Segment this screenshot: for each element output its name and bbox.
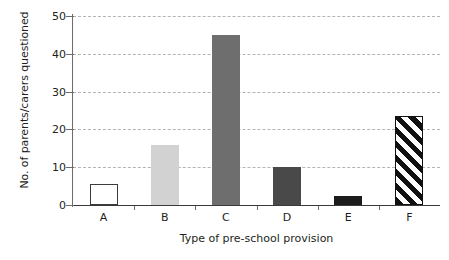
y-axis-tick-mark — [66, 205, 74, 206]
y-axis-tick-mark — [66, 16, 74, 17]
y-axis-tick-label: 30 — [34, 86, 66, 97]
x-axis-tick-label-b: B — [161, 211, 169, 224]
y-axis-tick-mark — [66, 54, 74, 55]
gridline — [73, 129, 440, 130]
gridline — [73, 54, 440, 55]
bar-e — [334, 196, 362, 205]
gridline — [73, 16, 440, 17]
bar-chart: No. of parents/carers questioned 0102030… — [0, 0, 449, 260]
plot-area — [73, 16, 440, 205]
bar-b — [151, 145, 179, 205]
gridline — [73, 92, 440, 93]
y-axis-tick-label: 40 — [34, 48, 66, 59]
y-axis-title: No. of parents/carers questioned — [13, 0, 35, 205]
y-axis-tick-label: 0 — [34, 200, 66, 211]
y-axis-tick-label: 20 — [34, 124, 66, 135]
bar-a — [90, 184, 118, 205]
y-axis-tick-labels: 01020304050 — [34, 0, 66, 260]
x-axis-tick-label-d: D — [283, 211, 291, 224]
x-axis-tick-mark — [257, 206, 258, 210]
gridline — [73, 167, 440, 168]
x-axis-tick-label-a: A — [100, 211, 108, 224]
x-axis-tick-mark — [379, 206, 380, 210]
x-axis-tick-mark — [318, 206, 319, 210]
x-axis-tick-mark — [134, 206, 135, 210]
x-axis-tick-label-e: E — [345, 211, 352, 224]
x-axis-tick-label-c: C — [222, 211, 230, 224]
y-axis-tick-label: 10 — [34, 162, 66, 173]
y-axis-tick-mark — [66, 167, 74, 168]
x-axis-tick-label-f: F — [406, 211, 412, 224]
x-axis-title: Type of pre-school provision — [73, 232, 440, 245]
bar-d — [273, 167, 301, 205]
y-axis-tick-mark — [66, 92, 74, 93]
bar-f — [395, 116, 423, 205]
y-axis-tick-mark — [66, 129, 74, 130]
y-axis-tick-label: 50 — [34, 11, 66, 22]
x-axis-tick-mark — [195, 206, 196, 210]
bar-c — [212, 35, 240, 205]
